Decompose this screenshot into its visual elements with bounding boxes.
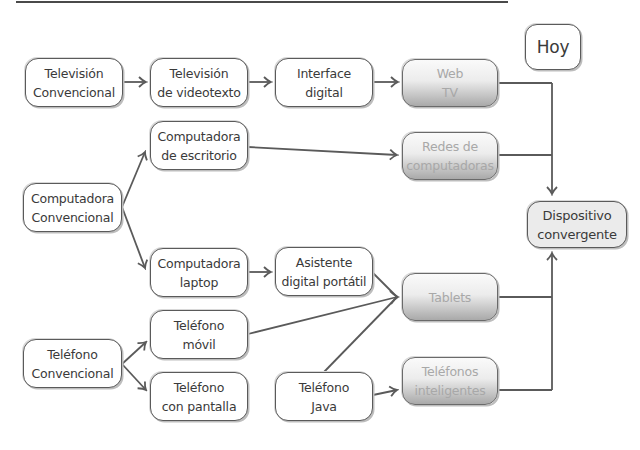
node-label: Interface digital <box>297 64 351 102</box>
node-telefono-movil: Teléfono móvil <box>150 310 248 359</box>
node-redes-computadoras: Redes de computadoras <box>402 132 498 180</box>
node-telefonos-inteligentes: Teléfonos inteligentes <box>402 357 498 405</box>
node-label: Televisión de videotexto <box>157 64 240 102</box>
node-label: Computadora laptop <box>157 254 240 292</box>
today-label: Hoy <box>537 38 570 57</box>
node-label: Televisión Convencional <box>33 64 115 102</box>
node-label: Dispositivo convergente <box>537 206 617 244</box>
node-tv-videotexto: Televisión de videotexto <box>150 58 248 107</box>
node-telefono-java: Teléfono Java <box>275 372 373 421</box>
node-label: Web TV <box>437 64 464 102</box>
node-web-tv: Web TV <box>402 59 498 107</box>
today-label-box: Hoy <box>525 24 581 70</box>
node-tv-convencional: Televisión Convencional <box>25 58 123 107</box>
node-label: Redes de computadoras <box>406 137 494 175</box>
node-computadora-laptop: Computadora laptop <box>150 248 248 297</box>
node-label: Teléfono Java <box>299 378 349 416</box>
node-tablets: Tablets <box>402 273 498 321</box>
node-label: Asistente digital portátil <box>282 253 367 291</box>
node-telefono-convencional: Teléfono Convencional <box>23 339 122 388</box>
node-dispositivo-convergente: Dispositivo convergente <box>527 201 627 248</box>
node-label: Tablets <box>429 288 471 307</box>
node-computadora-convencional: Computadora Convencional <box>23 183 122 232</box>
node-label: Teléfono móvil <box>174 316 224 354</box>
node-label: Teléfonos inteligentes <box>414 362 485 400</box>
node-computadora-escritorio: Computadora de escritorio <box>150 121 248 170</box>
node-interface-digital: Interface digital <box>275 58 373 107</box>
node-label: Computadora Convencional <box>31 189 114 227</box>
node-label: Teléfono Convencional <box>32 345 114 383</box>
node-label: Computadora de escritorio <box>157 127 240 165</box>
node-asistente-digital: Asistente digital portátil <box>275 247 373 296</box>
node-label: Teléfono con pantalla <box>162 378 237 416</box>
node-telefono-pantalla: Teléfono con pantalla <box>150 372 248 421</box>
